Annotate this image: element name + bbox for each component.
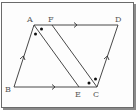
parallelogram-diagram: A F D B E C [0,0,136,112]
segment-ae [34,25,79,87]
angle-dot-a1-icon [34,33,37,36]
angle-dot-c2-icon [94,78,97,81]
label-e: E [75,90,81,99]
angle-dot-a2-icon [40,28,43,31]
label-f: F [48,15,54,24]
label-c: C [93,90,99,99]
angle-dot-c1-icon [88,82,91,85]
label-b: B [5,85,11,94]
segment-fc [52,25,97,87]
label-d: D [115,15,121,24]
parallelogram-abcd [14,25,118,87]
label-a: A [26,15,33,24]
